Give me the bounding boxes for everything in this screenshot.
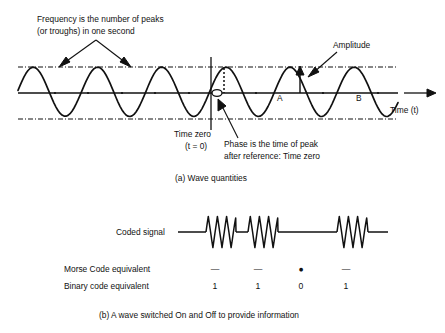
binary-row-label: Binary code equivalent — [64, 281, 149, 291]
time-zero-marker — [212, 90, 222, 97]
frequency-annotation-line2: (or troughs) in one second — [37, 26, 135, 36]
axis-tick-dot — [121, 92, 123, 94]
axis-tick-dot — [377, 92, 379, 94]
morse-symbol-3: ● — [298, 264, 303, 274]
point-label-b: B — [356, 93, 362, 103]
time-zero-label-line1: Time zero — [174, 129, 211, 139]
wave-quantities-figure: Frequency is the number of peaks (or tro… — [0, 0, 445, 333]
binary-symbol-4: 1 — [344, 281, 349, 291]
amplitude-label: Amplitude — [333, 40, 371, 50]
axis-tick-dot — [87, 92, 89, 94]
axis-tick-dot — [154, 92, 156, 94]
phase-label-line1: Phase is the time of peak — [224, 139, 319, 149]
axis-tick-dot — [255, 92, 257, 94]
panel-b-caption: (b) A wave switched On and Off to provid… — [99, 310, 299, 320]
phase-label-line2: after reference: Time zero — [224, 151, 320, 161]
time-axis-label: Time (t) — [390, 105, 419, 115]
binary-symbol-2: 1 — [256, 281, 261, 291]
morse-row-label: Morse Code equivalent — [64, 264, 151, 274]
binary-symbol-1: 1 — [213, 281, 218, 291]
coded-signal-label: Coded signal — [116, 227, 165, 237]
point-label-a: A — [277, 93, 283, 103]
axis-tick-dot — [188, 92, 190, 94]
axis-tick-dot — [322, 92, 324, 94]
morse-symbol-1: — — [211, 264, 220, 274]
panel-a-caption: (a) Wave quantities — [175, 173, 247, 183]
figure-canvas: Frequency is the number of peaks (or tro… — [0, 0, 445, 333]
morse-symbol-4: — — [342, 264, 351, 274]
morse-symbol-2: — — [254, 264, 263, 274]
frequency-annotation-line1: Frequency is the number of peaks — [37, 14, 164, 24]
binary-symbol-3: 0 — [299, 281, 304, 291]
time-zero-label-line2: (t = 0) — [185, 141, 207, 151]
